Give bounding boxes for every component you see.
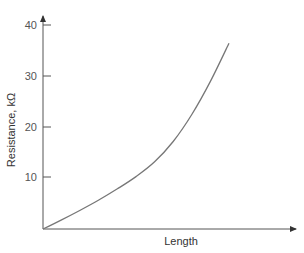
resistance-curve — [43, 43, 229, 229]
x-axis-label: Length — [164, 235, 198, 247]
y-axis-label: Resistance, kΩ — [5, 93, 17, 167]
ytick-label-30: 30 — [25, 70, 37, 82]
ytick-label-10: 10 — [25, 171, 37, 183]
y-ticks — [43, 25, 51, 177]
ytick-label-40: 40 — [25, 19, 37, 31]
ytick-label-20: 20 — [25, 121, 37, 133]
resistance-length-chart: 40 30 20 10 Resistance, kΩ Length — [0, 0, 304, 253]
